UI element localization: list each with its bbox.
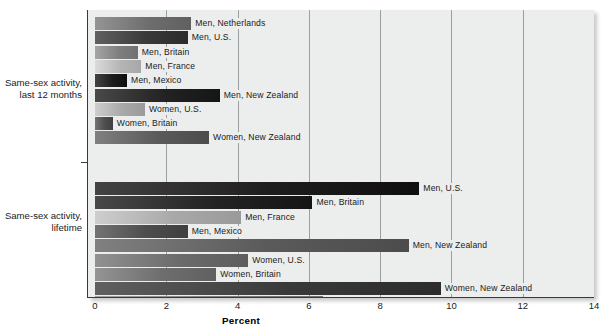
bar-label: Men, New Zealand (411, 240, 490, 251)
bar (95, 74, 127, 87)
bar (95, 89, 220, 102)
group-label-top-line1: Same-sex activity, (5, 77, 82, 89)
x-axis-title-text: Percent (222, 315, 260, 326)
x-tick-label-6: 6 (306, 300, 311, 311)
bar (95, 239, 409, 252)
x-tick-label-8: 8 (377, 300, 382, 311)
y-axis-line (87, 10, 88, 298)
bar-label: Women, U.S. (147, 104, 204, 115)
x-axis-title: Percent (0, 315, 606, 326)
bar-label: Men, New Zealand (222, 90, 301, 101)
bar-label: Women, Britain (115, 118, 180, 129)
x-tick-label-4: 4 (235, 300, 240, 311)
bar-label: Men, Britain (314, 197, 366, 208)
bar (95, 117, 113, 130)
bar (95, 60, 141, 73)
bar (95, 211, 241, 224)
bar-chart: Same-sex activity, last 12 months Same-s… (0, 0, 606, 334)
bar (95, 268, 216, 281)
bar-label: Women, U.S. (250, 255, 307, 266)
bar (95, 282, 441, 295)
x-tick-label-14: 14 (589, 300, 600, 311)
x-tick-label-0: 0 (92, 300, 97, 311)
gridline-10 (451, 10, 452, 298)
bar-label: Men, France (243, 212, 297, 223)
x-tick-label-2: 2 (164, 300, 169, 311)
bar-label: Men, U.S. (421, 183, 465, 194)
bar-label: Women, New Zealand (211, 132, 303, 143)
gridline-8 (380, 10, 381, 298)
bar (95, 17, 191, 30)
bar-label: Men, Britain (140, 47, 192, 58)
bar-label: Men, France (143, 61, 197, 72)
x-tick-label-10: 10 (446, 300, 457, 311)
bar (95, 182, 419, 195)
gridline-12 (523, 10, 524, 298)
group-label-bottom-line2: lifetime (52, 222, 82, 234)
plot-inner: Men, NetherlandsMen, U.S.Men, BritainMen… (88, 10, 594, 298)
group-label-bottom-line1: Same-sex activity, (5, 210, 82, 222)
bar-label: Women, New Zealand (443, 283, 535, 294)
plot-area: Men, NetherlandsMen, U.S.Men, BritainMen… (88, 10, 594, 298)
bar (95, 103, 145, 116)
bar (95, 225, 188, 238)
bar (95, 31, 188, 44)
group-label-top-line2: last 12 months (20, 89, 82, 101)
gridline-6 (309, 10, 310, 298)
x-tick-label-12: 12 (517, 300, 528, 311)
group-separator-tick (81, 162, 88, 163)
bar-label: Men, Mexico (190, 226, 244, 237)
bar-label: Men, Netherlands (193, 18, 267, 29)
bar-label: Men, U.S. (190, 32, 234, 43)
bar (95, 196, 312, 209)
x-axis-line (88, 297, 594, 298)
bar-label: Women, Britain (218, 269, 283, 280)
bar (95, 254, 248, 267)
bar (95, 131, 209, 144)
bar-label: Men, Mexico (129, 75, 183, 86)
bar (95, 46, 138, 59)
